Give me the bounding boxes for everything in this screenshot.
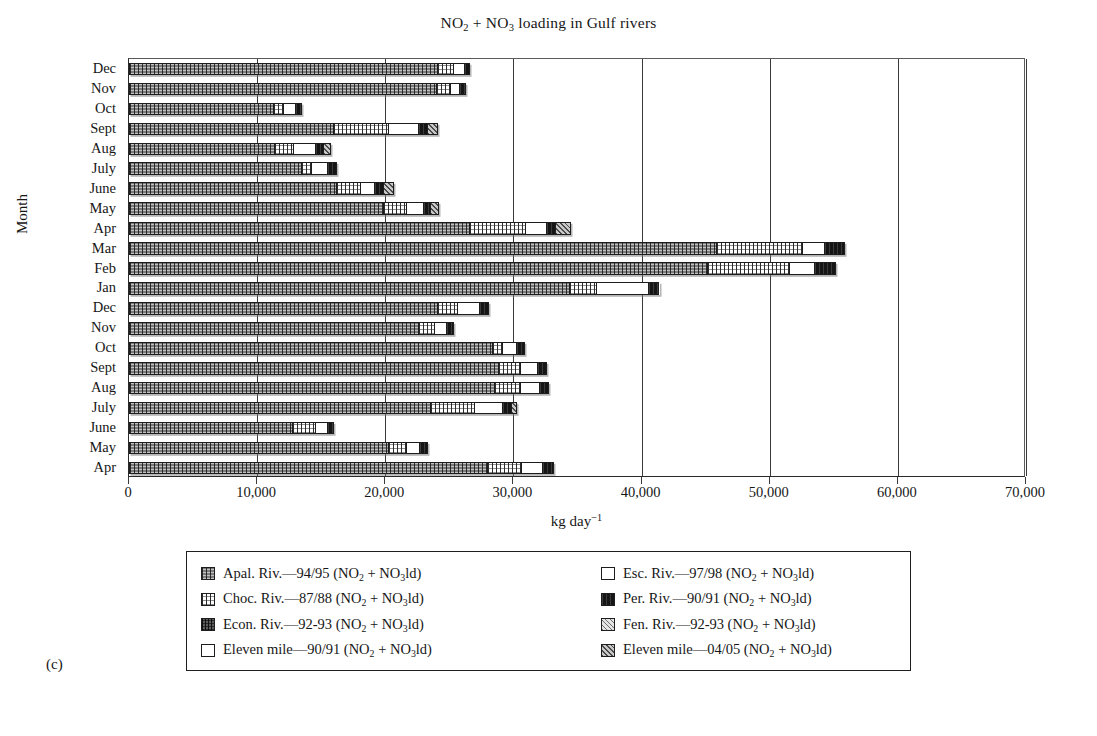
bar-segment-choc[interactable] [438,302,459,315]
stacked-bar[interactable] [129,182,394,195]
bar-segment-choc[interactable] [302,162,312,175]
bar-segment-elevenA[interactable] [294,143,316,156]
bar-segment-elevenB[interactable] [556,222,571,235]
bar-segment-elevenB[interactable] [431,202,439,215]
legend-item-elevenA[interactable]: Eleven mile—90/91 (NO2 + NO3ld) [201,638,593,664]
bar-segment-elevenA[interactable] [316,422,328,435]
bar-segment-elevenA[interactable] [435,322,447,335]
bar-segment-apal[interactable] [129,222,470,235]
bar-segment-choc[interactable] [717,242,803,255]
legend-item-per[interactable]: Per. Riv.—90/91 (NO2 + NO3ld) [601,587,921,613]
bar-row[interactable] [129,199,439,219]
bar-segment-elevenB[interactable] [512,402,517,415]
bar-segment-elevenB[interactable] [384,182,394,195]
bar-segment-elevenA[interactable] [389,123,418,136]
bar-segment-choc[interactable] [495,382,521,395]
bar-segment-per[interactable] [543,462,555,475]
bar-segment-per[interactable] [419,123,428,136]
bar-row[interactable] [129,298,489,318]
bar-segment-apal[interactable] [129,202,384,215]
bar-segment-per[interactable] [296,103,302,116]
bar-segment-choc[interactable] [293,422,316,435]
bar-segment-apal[interactable] [129,63,438,76]
stacked-bar[interactable] [129,63,470,76]
bar-row[interactable] [129,119,438,139]
bar-segment-apal[interactable] [129,342,493,355]
bar-segment-elevenA[interactable] [458,302,480,315]
bar-segment-elevenA[interactable] [407,202,424,215]
bar-segment-elevenA[interactable] [503,342,517,355]
bar-segment-elevenA[interactable] [521,362,538,375]
bar-row[interactable] [129,59,470,79]
bar-segment-apal[interactable] [129,302,438,315]
bar-segment-per[interactable] [375,182,384,195]
bar-segment-elevenA[interactable] [803,242,825,255]
bar-segment-choc[interactable] [470,222,526,235]
stacked-bar[interactable] [129,162,337,175]
stacked-bar[interactable] [129,342,525,355]
bar-segment-choc[interactable] [570,282,597,295]
bar-segment-elevenA[interactable] [312,162,327,175]
bar-segment-choc[interactable] [499,362,521,375]
bar-segment-per[interactable] [465,63,470,76]
stacked-bar[interactable] [129,242,845,255]
stacked-bar[interactable] [129,382,549,395]
bar-segment-elevenA[interactable] [451,83,460,96]
bar-segment-per[interactable] [517,342,525,355]
bar-row[interactable] [129,278,660,298]
bar-segment-choc[interactable] [274,103,284,116]
stacked-bar[interactable] [129,402,517,415]
bar-segment-apal[interactable] [129,402,431,415]
bar-segment-apal[interactable] [129,282,570,295]
bar-segment-choc[interactable] [389,442,407,455]
bar-segment-elevenA[interactable] [407,442,420,455]
bar-segment-apal[interactable] [129,123,334,136]
bar-row[interactable] [129,159,337,179]
legend-item-econ[interactable]: Econ. Riv.—92-93 (NO2 + NO3ld) [201,612,593,638]
bar-segment-apal[interactable] [129,83,437,96]
stacked-bar[interactable] [129,83,466,96]
bar-segment-apal[interactable] [129,103,274,116]
stacked-bar[interactable] [129,282,660,295]
stacked-bar[interactable] [129,302,489,315]
bar-segment-per[interactable] [424,202,432,215]
bar-segment-apal[interactable] [129,143,275,156]
bar-segment-per[interactable] [480,302,489,315]
stacked-bar[interactable] [129,442,428,455]
bar-segment-apal[interactable] [129,322,419,335]
bar-row[interactable] [129,378,549,398]
bar-row[interactable] [129,358,547,378]
legend-item-choc[interactable]: Choc. Riv.—87/88 (NO2 + NO3ld) [201,587,593,613]
bar-segment-per[interactable] [649,282,659,295]
bar-row[interactable] [129,79,466,99]
bar-segment-elevenA[interactable] [475,402,503,415]
bar-segment-elevenA[interactable] [522,462,543,475]
bar-segment-per[interactable] [328,162,337,175]
bar-segment-per[interactable] [447,322,455,335]
bar-segment-per[interactable] [815,262,837,275]
stacked-bar[interactable] [129,322,454,335]
bar-segment-choc[interactable] [419,322,436,335]
bar-row[interactable] [129,179,394,199]
bar-segment-choc[interactable] [337,182,361,195]
bar-row[interactable] [129,139,331,159]
bar-segment-per[interactable] [460,83,466,96]
bar-segment-per[interactable] [328,422,334,435]
bar-segment-apal[interactable] [129,442,389,455]
bar-segment-elevenA[interactable] [521,382,540,395]
stacked-bar[interactable] [129,362,547,375]
legend-item-apal[interactable]: Apal. Riv.—94/95 (NO2 + NO3ld) [201,561,593,587]
bar-segment-choc[interactable] [275,143,294,156]
bar-row[interactable] [129,219,571,239]
bar-segment-per[interactable] [547,222,556,235]
bar-segment-elevenA[interactable] [454,63,464,76]
bar-segment-apal[interactable] [129,242,717,255]
bar-row[interactable] [129,338,525,358]
bar-segment-elevenA[interactable] [284,103,296,116]
bar-segment-elevenB[interactable] [324,143,332,156]
bar-segment-choc[interactable] [488,462,523,475]
bar-segment-choc[interactable] [384,202,407,215]
bar-segment-elevenA[interactable] [597,282,650,295]
bar-segment-apal[interactable] [129,382,495,395]
stacked-bar[interactable] [129,222,571,235]
